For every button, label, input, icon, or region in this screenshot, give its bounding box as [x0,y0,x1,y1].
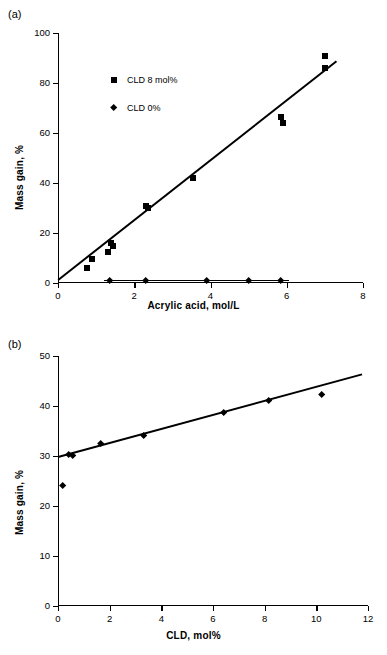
y-tick-label: 100 [24,27,50,38]
square-data-point [145,205,151,211]
x-tick-label: 10 [301,613,331,624]
square-data-point [190,175,196,181]
panel-a: (a) Mass gain, % Acrylic acid, mol/L 024… [0,0,387,330]
legend-item-cld8: CLD 8 mol% [105,72,178,88]
y-tick [53,33,58,34]
square-data-point [105,249,111,255]
y-tick [53,356,58,357]
x-tick-label: 8 [348,290,378,301]
square-data-point [322,53,328,59]
x-tick [368,606,369,611]
y-tick-label: 0 [24,277,50,288]
square-data-point [322,65,328,71]
y-tick [53,133,58,134]
y-tick-label: 40 [24,400,50,411]
x-tick [213,606,214,611]
x-tick [134,283,135,288]
y-tick [53,606,58,607]
y-tick [53,506,58,507]
square-data-point [110,243,116,249]
x-tick-label: 2 [95,613,125,624]
x-tick [58,606,59,611]
x-axis-title-a: Acrylic acid, mol/L [0,300,387,311]
legend-a: CLD 8 mol% CLD 0% [105,72,178,116]
y-tick-label: 10 [24,550,50,561]
diamond-marker-icon [105,100,123,116]
y-tick [53,556,58,557]
y-tick [53,233,58,234]
y-tick-label: 50 [24,350,50,361]
y-tick-label: 20 [24,500,50,511]
x-tick [211,283,212,288]
x-tick-label: 4 [196,290,226,301]
x-tick-label: 2 [119,290,149,301]
square-data-point [280,120,286,126]
panel-b: (b) Mass gain, % CLD, mol% 0246810120102… [0,330,387,655]
x-tick [58,283,59,288]
y-tick-label: 30 [24,450,50,461]
y-tick [53,83,58,84]
x-tick-label: 12 [353,613,383,624]
x-tick-label: 0 [43,613,73,624]
square-marker-icon [105,72,123,88]
legend-item-cld0: CLD 0% [105,100,178,116]
x-tick-label: 8 [250,613,280,624]
legend-label-cld0: CLD 0% [127,103,161,113]
x-tick [287,283,288,288]
square-data-point [84,265,90,271]
trend-line [104,280,289,282]
y-tick [53,283,58,284]
x-tick [316,606,317,611]
y-tick [53,406,58,407]
y-tick [53,183,58,184]
x-axis-title-b: CLD, mol% [0,630,387,641]
x-tick-label: 6 [198,613,228,624]
y-tick-label: 20 [24,227,50,238]
panel-b-label: (b) [8,338,21,350]
panel-a-label: (a) [8,8,21,20]
x-tick [363,283,364,288]
x-tick [265,606,266,611]
x-tick [161,606,162,611]
y-tick-label: 0 [24,600,50,611]
legend-label-cld8: CLD 8 mol% [127,75,178,85]
y-tick-label: 60 [24,127,50,138]
x-tick [110,606,111,611]
y-tick-label: 80 [24,77,50,88]
square-data-point [89,256,95,262]
x-tick-label: 6 [272,290,302,301]
square-data-point [278,114,284,120]
x-tick-label: 4 [146,613,176,624]
x-tick-label: 0 [43,290,73,301]
y-tick-label: 40 [24,177,50,188]
